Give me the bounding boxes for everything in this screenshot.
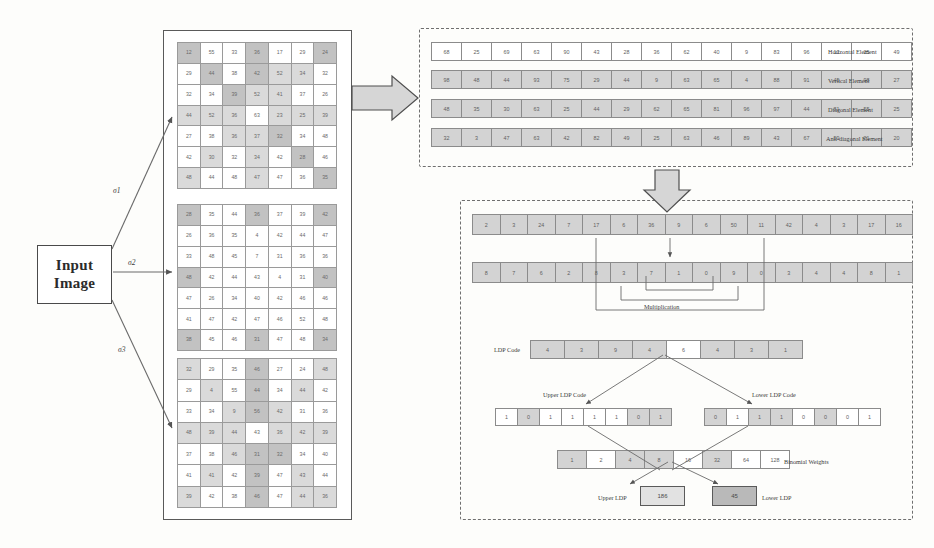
value-cell: 1 xyxy=(649,408,672,426)
pixel-cell: 9 xyxy=(223,402,245,422)
pixel-cell: 47 xyxy=(314,226,336,246)
pixel-cell: 48 xyxy=(314,309,336,329)
value-cell: 36 xyxy=(637,214,666,235)
value-cell: 1 xyxy=(858,408,881,426)
value-cell: 49 xyxy=(881,42,912,61)
pixel-cell: 24 xyxy=(292,359,314,379)
value-cell: 63 xyxy=(671,128,702,147)
value-cell: 49 xyxy=(611,128,642,147)
value-cell: 16 xyxy=(673,450,703,469)
pixel-cell: 42 xyxy=(269,226,291,246)
pixel-cell: 34 xyxy=(292,126,314,146)
pixel-cell: 52 xyxy=(246,85,268,105)
pixel-cell: 46 xyxy=(223,444,245,464)
scale-3-grid: 3229354627244829455443444423334956423136… xyxy=(177,358,337,508)
pixel-cell: 35 xyxy=(314,168,336,188)
value-cell: 50 xyxy=(720,214,749,235)
pixel-cell: 38 xyxy=(201,126,223,146)
pixel-cell: 39 xyxy=(314,106,336,126)
pixel-cell: 46 xyxy=(246,359,268,379)
pixel-cell: 42 xyxy=(269,288,291,308)
pixel-cell: 32 xyxy=(269,126,291,146)
value-cell: 17 xyxy=(582,214,611,235)
value-cell: 9 xyxy=(720,262,749,283)
pixel-cell: 43 xyxy=(246,423,268,443)
value-cell: 68 xyxy=(431,42,462,61)
pixel-cell: 27 xyxy=(178,126,200,146)
pixel-cell: 47 xyxy=(178,288,200,308)
pixel-cell: 35 xyxy=(223,359,245,379)
value-cell: 4 xyxy=(632,340,667,359)
value-cell: 36 xyxy=(641,42,672,61)
pixel-cell: 34 xyxy=(201,402,223,422)
sigma-1-label: σ1 xyxy=(113,186,120,195)
upper-ldp-result-label: Upper LDP xyxy=(598,494,627,501)
pixel-cell: 46 xyxy=(269,309,291,329)
pixel-cell: 42 xyxy=(292,423,314,443)
pixel-cell: 35 xyxy=(223,226,245,246)
pixel-cell: 44 xyxy=(292,487,314,507)
ldp-code-row: 43946431 xyxy=(530,340,802,359)
pixel-cell: 28 xyxy=(178,205,200,225)
value-cell: 3 xyxy=(500,214,529,235)
value-cell: 83 xyxy=(761,42,792,61)
value-cell: 96 xyxy=(791,42,822,61)
value-cell: 3 xyxy=(610,262,639,283)
pixel-cell: 39 xyxy=(178,487,200,507)
value-cell: 3 xyxy=(564,340,599,359)
pixel-cell: 48 xyxy=(201,247,223,267)
pixel-cell: 31 xyxy=(269,247,291,267)
value-cell: 82 xyxy=(581,128,612,147)
pixel-cell: 37 xyxy=(178,444,200,464)
mask-response-row: 232471763696501142431716 xyxy=(472,214,912,235)
value-cell: 0 xyxy=(627,408,650,426)
pixel-cell: 42 xyxy=(201,268,223,288)
pixel-cell: 34 xyxy=(314,330,336,350)
pixel-cell: 36 xyxy=(201,226,223,246)
value-cell: 4 xyxy=(700,340,735,359)
pixel-cell: 42 xyxy=(178,147,200,167)
value-cell: 28 xyxy=(611,42,642,61)
value-cell: 1 xyxy=(770,408,793,426)
pixel-cell: 42 xyxy=(269,402,291,422)
value-cell: 7 xyxy=(500,262,529,283)
pixel-cell: 44 xyxy=(201,64,223,84)
value-cell: 8 xyxy=(644,450,674,469)
value-cell: 7 xyxy=(555,214,584,235)
value-cell: 7 xyxy=(637,262,666,283)
antidiagonal-element-label: Anti-diagonal Element xyxy=(826,135,883,142)
pixel-cell: 47 xyxy=(269,465,291,485)
pixel-cell: 45 xyxy=(201,330,223,350)
value-cell: 93 xyxy=(521,70,552,89)
value-cell: 64 xyxy=(731,450,761,469)
pixel-cell: 48 xyxy=(292,330,314,350)
pixel-cell: 39 xyxy=(201,423,223,443)
pixel-cell: 47 xyxy=(201,309,223,329)
neighbour-row: 8762837109034481 xyxy=(472,262,912,283)
value-cell: 3 xyxy=(734,340,769,359)
pixel-cell: 48 xyxy=(178,168,200,188)
pixel-cell: 52 xyxy=(269,64,291,84)
value-cell: 27 xyxy=(881,70,912,89)
pixel-cell: 34 xyxy=(246,147,268,167)
block-arrow-right xyxy=(352,76,418,120)
pixel-cell: 26 xyxy=(201,288,223,308)
pixel-cell: 44 xyxy=(292,226,314,246)
value-cell: 1 xyxy=(665,262,694,283)
value-cell: 1 xyxy=(583,408,606,426)
pixel-cell: 24 xyxy=(314,43,336,63)
pixel-cell: 47 xyxy=(246,168,268,188)
value-cell: 30 xyxy=(491,99,522,118)
pixel-cell: 44 xyxy=(223,423,245,443)
pixel-cell: 47 xyxy=(269,487,291,507)
pixel-cell: 29 xyxy=(178,64,200,84)
value-cell: 35 xyxy=(461,99,492,118)
lower-ldp-result-label: Lower LDP xyxy=(762,494,791,501)
value-cell: 4 xyxy=(731,70,762,89)
input-image-label-line2: Image xyxy=(54,275,96,292)
pixel-cell: 36 xyxy=(246,205,268,225)
pixel-cell: 44 xyxy=(178,106,200,126)
value-cell: 47 xyxy=(491,128,522,147)
value-cell: 6 xyxy=(527,262,556,283)
pixel-cell: 37 xyxy=(269,205,291,225)
